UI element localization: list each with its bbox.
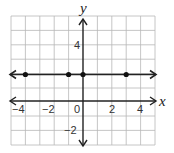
y-axis (79, 19, 87, 146)
point-neg1-2 (66, 72, 71, 77)
x-tick-2: 2 (109, 103, 115, 115)
coordinate-plane: y x −4 −2 0 2 4 4 −2 (0, 0, 174, 153)
x-tick-4: 4 (137, 103, 143, 115)
x-tick-0: 0 (74, 103, 80, 115)
x-tick-neg2: −2 (42, 103, 55, 115)
point-neg4-2 (23, 72, 28, 77)
y-axis-label: y (78, 0, 87, 16)
point-3-2 (124, 72, 129, 77)
x-axis-label: x (158, 93, 166, 109)
y-tick-4: 4 (74, 39, 80, 51)
y-tick-neg2: −2 (64, 124, 77, 136)
x-tick-neg4: −4 (12, 103, 25, 115)
point-0-2 (80, 72, 85, 77)
